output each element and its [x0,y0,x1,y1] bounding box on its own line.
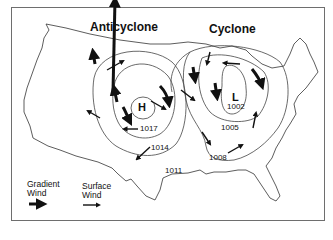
isobar-label-1005: 1005 [221,124,239,132]
legend-surface-wind-label: Surface Wind [82,182,111,200]
isobar-label-1008: 1008 [209,154,227,162]
isobar-label-1014: 1014 [151,144,169,152]
anticyclone-title: Anticyclone [90,20,158,34]
legend-gradient-line2: Wind [27,189,60,198]
legend-gradient-wind-label: Gradient Wind [27,180,60,198]
cyclone-title: Cyclone [209,22,256,36]
isobar-label-1002: 1002 [227,103,245,111]
legend-arrows [29,204,99,205]
high-pressure-symbol: H [138,102,146,113]
legend-surface-line2: Wind [82,191,111,200]
isobar-label-1017: 1017 [140,125,158,133]
isobar-label-1011: 1011 [165,167,182,175]
